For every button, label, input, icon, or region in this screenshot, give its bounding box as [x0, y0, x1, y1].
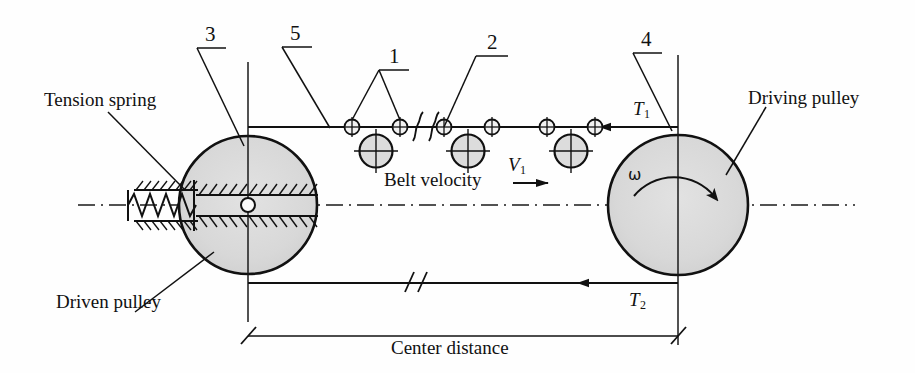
- leader-3: [197, 48, 244, 146]
- tension-t2-letter: T: [629, 289, 640, 310]
- tension-t2-subscript: 2: [640, 298, 647, 312]
- callout-1: 1: [389, 46, 400, 67]
- driving-pulley-label: Driving pulley: [748, 88, 859, 107]
- tension-t2-label: T2: [629, 290, 646, 311]
- leader-tension-spring: [108, 112, 185, 190]
- omega-label: ω: [628, 167, 641, 183]
- tension-t1-letter: T: [633, 98, 644, 119]
- chain-link-group: [342, 117, 410, 173]
- velocity-symbol-subscript: 1: [520, 163, 527, 177]
- tension-t1-label: T1: [633, 99, 650, 120]
- driven-pulley-hub: [241, 198, 255, 212]
- leader-driving-pulley: [726, 107, 766, 175]
- tension-t1-subscript: 1: [644, 107, 651, 121]
- velocity-symbol-letter: V: [508, 154, 520, 175]
- leader-5: [282, 47, 330, 128]
- callout-3: 3: [205, 24, 216, 45]
- driven-pulley-label: Driven pulley: [56, 292, 161, 311]
- leader-1-right: [379, 70, 400, 120]
- callout-4: 4: [641, 29, 652, 50]
- belt-velocity-label: Belt velocity: [384, 170, 482, 189]
- figure-canvas: Tension spring Driven pulley Driving pul…: [0, 0, 915, 373]
- callout-2: 2: [487, 32, 498, 53]
- tension-spring-label: Tension spring: [44, 90, 156, 109]
- center-distance-label: Center distance: [391, 338, 509, 357]
- velocity-symbol: V1: [508, 155, 526, 176]
- leader-2: [444, 56, 476, 127]
- callout-5: 5: [290, 23, 301, 44]
- leader-1-left: [352, 70, 379, 120]
- chain-link-group: [537, 117, 605, 173]
- chain-elements: [342, 112, 605, 173]
